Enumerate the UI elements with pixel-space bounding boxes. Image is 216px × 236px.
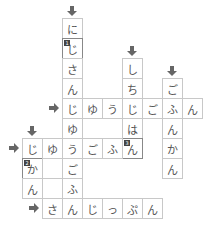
cell-character: ぷ	[127, 201, 138, 217]
clue-number-badge: 2	[24, 160, 30, 166]
cell-character: う	[67, 141, 78, 157]
down-arrow-icon	[27, 126, 37, 136]
right-arrow-icon	[29, 203, 39, 213]
right-arrow-icon	[9, 143, 19, 153]
crossword-cell[interactable]: ん	[162, 118, 183, 139]
crossword-cell[interactable]: じ	[122, 98, 143, 119]
down-arrow-icon	[67, 6, 77, 16]
crossword-cell[interactable]: し	[122, 58, 143, 79]
crossword-cell[interactable]: さ	[62, 58, 83, 79]
cell-character: は	[127, 121, 138, 137]
cell-character: ん	[67, 201, 78, 217]
crossword-cell[interactable]: う	[62, 138, 83, 159]
crossword-cell[interactable]: じ	[82, 198, 103, 219]
cell-character: ん	[67, 81, 78, 97]
crossword-cell[interactable]: ん	[182, 98, 203, 119]
cell-character: じ	[127, 101, 138, 117]
crossword-cell[interactable]: ん	[62, 78, 83, 99]
cell-character: じ	[87, 201, 98, 217]
crossword-cell[interactable]: ゆ	[82, 98, 103, 119]
crossword-cell[interactable]: ご	[62, 158, 83, 179]
cell-character: じ	[67, 101, 78, 117]
cell-character: ん	[167, 161, 178, 177]
cell-character: ち	[127, 81, 138, 97]
cell-character: う	[107, 101, 118, 117]
crossword-cell[interactable]: ぷ	[122, 198, 143, 219]
cell-character: ふ	[167, 101, 178, 117]
crossword-cell[interactable]: ご	[82, 138, 103, 159]
right-arrow-icon	[49, 103, 59, 113]
down-arrow-icon	[127, 46, 137, 56]
crossword-cell[interactable]: は	[122, 118, 143, 139]
crossword-cell[interactable]: ん	[162, 158, 183, 179]
down-arrow-icon	[167, 66, 177, 76]
crossword-cell[interactable]: ち	[122, 78, 143, 99]
crossword-cell[interactable]: さ	[42, 198, 63, 219]
crossword-cell[interactable]	[42, 158, 63, 179]
crossword-cell[interactable]: ご	[162, 78, 183, 99]
cell-character: に	[67, 21, 78, 37]
cell-character: ん	[187, 101, 198, 117]
crossword-cell[interactable]: っ	[102, 198, 123, 219]
crossword-cell[interactable]: ふ	[62, 178, 83, 199]
clue-number-badge: 1	[64, 40, 70, 46]
crossword-cell[interactable]: か	[162, 138, 183, 159]
crossword-cell[interactable]: 2か	[22, 158, 43, 179]
crossword-cell[interactable]: ふ	[162, 98, 183, 119]
cell-character: ふ	[67, 181, 78, 197]
cell-character: ふ	[107, 141, 118, 157]
cell-character: ゆ	[67, 121, 78, 137]
crossword-cell[interactable]: ん	[22, 178, 43, 199]
cell-character: っ	[107, 201, 118, 217]
crossword-cell[interactable]: ご	[142, 98, 163, 119]
cell-character: ご	[67, 161, 78, 177]
clue-number-badge: 3	[124, 140, 130, 146]
cell-character: ん	[167, 121, 178, 137]
crossword-cell[interactable]: う	[102, 98, 123, 119]
cell-character: ん	[147, 201, 158, 217]
crossword-cell[interactable]: 1じ	[62, 38, 83, 59]
crossword-cell[interactable]: じ	[62, 98, 83, 119]
cell-character: し	[127, 61, 138, 77]
cell-character: ご	[167, 81, 178, 97]
crossword-cell[interactable]: ゆ	[42, 138, 63, 159]
crossword-cell[interactable]: じ	[22, 138, 43, 159]
cell-character: さ	[47, 201, 58, 217]
cell-character: ゆ	[47, 141, 58, 157]
crossword-cell[interactable]: ふ	[102, 138, 123, 159]
crossword-cell[interactable]: ん	[142, 198, 163, 219]
cell-character: ご	[147, 101, 158, 117]
crossword-cell[interactable]: 3ん	[122, 138, 143, 159]
cell-character: ん	[27, 181, 38, 197]
cell-character: じ	[27, 141, 38, 157]
crossword-cell[interactable]: ん	[62, 198, 83, 219]
crossword-cell[interactable]: に	[62, 18, 83, 39]
cell-character: さ	[67, 61, 78, 77]
cell-character: か	[167, 141, 178, 157]
cell-character: ご	[87, 141, 98, 157]
cell-character: ゆ	[87, 101, 98, 117]
crossword-cell[interactable]: ゆ	[62, 118, 83, 139]
